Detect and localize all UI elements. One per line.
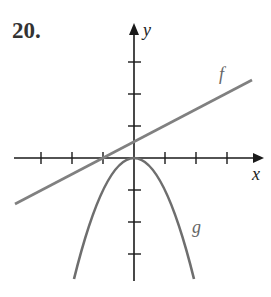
parabola-g-label: g	[192, 217, 201, 237]
problem-number: 20.	[12, 18, 41, 43]
y-axis	[128, 23, 141, 281]
line-f-label: f	[219, 64, 227, 84]
y-axis-label: y	[141, 20, 151, 40]
x-axis-label: x	[251, 164, 260, 184]
y-axis-arrow-icon	[129, 23, 139, 35]
x-axis-arrow-icon	[253, 153, 264, 163]
graph-figure: 20. x y f g	[0, 0, 271, 297]
